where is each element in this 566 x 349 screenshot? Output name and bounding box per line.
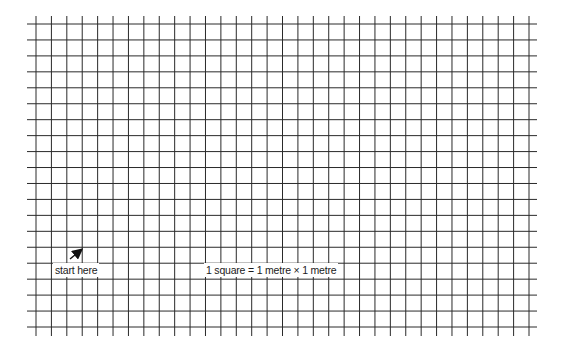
scale-label: 1 square = 1 metre × 1 metre — [204, 263, 338, 277]
start-here-label: start here — [53, 263, 99, 277]
start-arrow-icon — [0, 0, 566, 349]
